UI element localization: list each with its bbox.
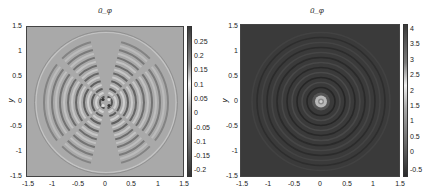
right-xtick: 0 — [310, 180, 330, 187]
right-xtick: -1.5 — [232, 180, 252, 187]
left-cbtick: 0.05 — [194, 95, 208, 102]
left-xtick: 0 — [95, 180, 115, 187]
right-ytick: 0 — [216, 97, 238, 104]
left-ytick: -1.5 — [0, 172, 22, 179]
right-ring-pattern — [241, 25, 400, 177]
right-cbtick: 0.5 — [410, 133, 420, 140]
left-cbtick: -0.2 — [194, 166, 206, 173]
right-heatmap — [240, 24, 400, 177]
left-cbtick: 0.15 — [194, 66, 208, 73]
left-xtick: -0.5 — [68, 180, 88, 187]
left-ytick: 1.5 — [0, 22, 22, 29]
right-xtick: -0.5 — [284, 180, 304, 187]
right-xtick: -1 — [258, 180, 278, 187]
left-xtick: 1.5 — [174, 180, 194, 187]
right-cbtick: 1.5 — [410, 102, 420, 109]
right-cbtick: 1 — [410, 117, 414, 124]
left-ytick: 0.5 — [0, 72, 22, 79]
right-ytick: 1.5 — [216, 22, 238, 29]
left-ytick: -0.5 — [0, 122, 22, 129]
left-cbtick: 0.2 — [194, 52, 204, 59]
left-colorbar — [187, 26, 192, 177]
left-ytick: 1 — [0, 47, 22, 54]
left-cbtick: 0.1 — [194, 81, 204, 88]
left-xtick: -1 — [42, 180, 62, 187]
left-cbtick: 0.25 — [194, 38, 208, 45]
right-xtick: 1.5 — [390, 180, 410, 187]
left-cbtick: 0 — [194, 109, 198, 116]
left-cbtick: -0.05 — [194, 124, 210, 131]
right-cbtick: -0.5 — [410, 166, 422, 173]
left-xtick: -1.5 — [18, 180, 38, 187]
right-xtick: 0.5 — [337, 180, 357, 187]
right-cbtick: 2.5 — [410, 71, 420, 78]
right-ytick: -0.5 — [216, 122, 238, 129]
left-plot-panel: ũ_φ y 1.5 1 0.5 0 -0.5 -1 -1.5 — [0, 0, 216, 194]
right-ytick: -1.5 — [216, 172, 238, 179]
right-colorbar — [403, 24, 408, 177]
right-ytick: -1 — [216, 147, 238, 154]
left-xtick: 1 — [148, 180, 168, 187]
right-cbtick: 2 — [410, 87, 414, 94]
left-heatmap — [26, 26, 184, 177]
left-ytick: -1 — [0, 147, 22, 154]
left-plot-title: ũ_φ — [85, 6, 125, 15]
right-cbtick: 3.5 — [410, 40, 420, 47]
left-ytick: 0 — [0, 97, 22, 104]
left-wave-pattern — [27, 27, 184, 177]
right-cbtick: 4 — [410, 25, 414, 32]
right-plot-title: ũ_φ — [297, 6, 337, 15]
right-cbtick: 0 — [410, 148, 414, 155]
right-plot-panel: ũ_φ y 1.5 1 0.5 0 -0.5 -1 -1.5 -1.5 -1 -… — [214, 0, 432, 194]
right-ytick: 1 — [216, 47, 238, 54]
right-cbtick: 3 — [410, 56, 414, 63]
left-cbtick: -0.15 — [194, 152, 210, 159]
right-ytick: 0.5 — [216, 72, 238, 79]
right-xtick: 1 — [363, 180, 383, 187]
left-cbtick: -0.1 — [194, 138, 206, 145]
left-xtick: 0.5 — [121, 180, 141, 187]
